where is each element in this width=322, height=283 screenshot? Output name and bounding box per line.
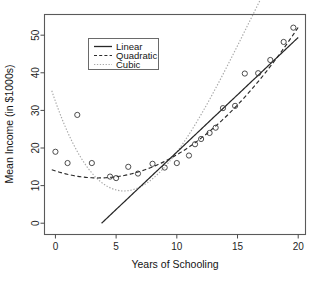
y-tick-label: 50 xyxy=(30,29,41,41)
x-axis-title: Years of Schooling xyxy=(131,258,218,270)
y-axis-title: Mean Income (in $1000s) xyxy=(3,64,15,183)
x-tick-label: 0 xyxy=(53,241,59,252)
x-tick-label: 10 xyxy=(171,241,183,252)
y-tick-label: 20 xyxy=(30,142,41,154)
chart-background xyxy=(0,0,322,283)
chart-legend: Linear Quadratic Cubic xyxy=(89,39,159,70)
chart-figure: 01020304050 05101520 Linear Quadratic Cu… xyxy=(0,0,322,283)
legend-label-cubic: Cubic xyxy=(116,59,141,70)
x-tick-label: 5 xyxy=(113,241,119,252)
y-tick-label: 30 xyxy=(30,104,41,116)
y-tick-label: 0 xyxy=(30,220,41,226)
y-tick-label: 40 xyxy=(30,67,41,79)
x-tick-label: 20 xyxy=(293,241,305,252)
regression-scatter-chart: 01020304050 05101520 Linear Quadratic Cu… xyxy=(0,0,322,283)
x-tick-label: 15 xyxy=(232,241,244,252)
y-tick-label: 10 xyxy=(30,180,41,192)
